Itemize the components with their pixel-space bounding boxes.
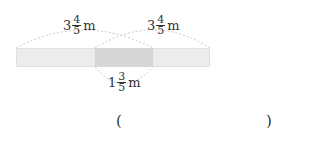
whole-part: 1 xyxy=(108,75,116,90)
fraction: 4 5 xyxy=(156,15,165,36)
answer-close-paren: ) xyxy=(266,112,272,130)
left-length-label: 3 4 5 m xyxy=(63,15,96,36)
unit: m xyxy=(83,18,95,33)
denominator: 5 xyxy=(72,26,81,36)
fraction: 3 5 xyxy=(117,72,126,93)
overlap-length-label: 1 3 5 m xyxy=(108,72,141,93)
unit: m xyxy=(128,75,140,90)
overlap-region xyxy=(95,48,153,67)
denominator: 5 xyxy=(156,26,165,36)
whole-part: 3 xyxy=(147,18,155,33)
right-length-label: 3 4 5 m xyxy=(147,15,180,36)
answer-blank[interactable] xyxy=(128,112,264,130)
answer-open-paren: ( xyxy=(116,112,122,130)
unit: m xyxy=(167,18,179,33)
fraction: 4 5 xyxy=(72,15,81,36)
whole-part: 3 xyxy=(63,18,71,33)
denominator: 5 xyxy=(117,83,126,93)
